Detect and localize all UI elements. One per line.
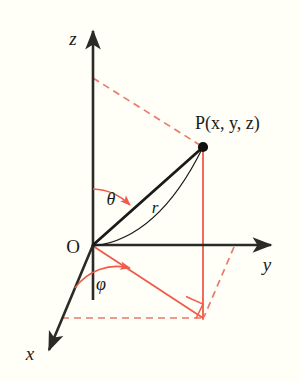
- spherical-coordinates-figure: z y x O P(x, y, z) r θ φ: [0, 0, 301, 382]
- point-p-label: P(x, y, z): [195, 113, 260, 134]
- point-p-marker: [198, 142, 208, 152]
- x-axis: [49, 245, 93, 350]
- theta-angle-label: θ: [107, 189, 116, 209]
- dashed-line-y-to-projection: [204, 247, 234, 317]
- z-axis-label: z: [68, 28, 77, 49]
- diagram-canvas: z y x O P(x, y, z) r θ φ: [0, 0, 301, 382]
- projection-line-origin-to-xy: [93, 246, 203, 318]
- dashed-line-z-to-p: [93, 78, 203, 147]
- y-axis-label: y: [261, 254, 272, 275]
- coordinate-axes: [49, 31, 271, 350]
- projection-construction: [93, 150, 203, 319]
- phi-angle-label: φ: [96, 274, 106, 294]
- radius-label: r: [152, 198, 159, 217]
- x-axis-label: x: [25, 343, 35, 364]
- origin-label: O: [66, 236, 80, 257]
